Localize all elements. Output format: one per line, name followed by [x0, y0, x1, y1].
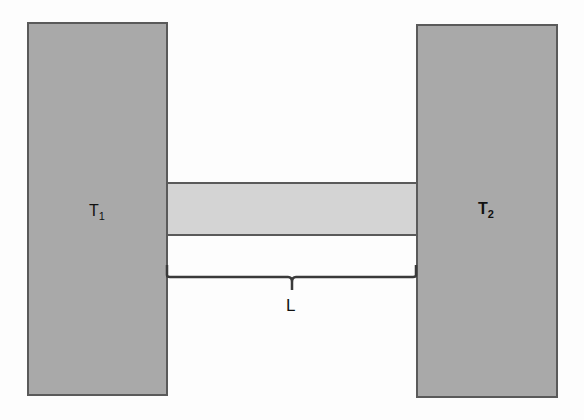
t1-label-text: T: [89, 202, 99, 219]
t1-subscript: 1: [99, 210, 105, 222]
heat-conduction-diagram: T1 T2 L: [0, 0, 584, 420]
t2-label-text: T: [478, 200, 488, 217]
length-brace: [0, 0, 584, 420]
t2-label: T2: [478, 200, 494, 220]
t1-label: T1: [89, 202, 105, 222]
t2-subscript: 2: [488, 208, 494, 220]
length-label: L: [286, 296, 295, 316]
